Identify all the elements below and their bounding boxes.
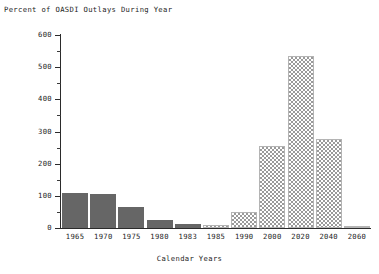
bar: [90, 194, 116, 228]
y-axis-tick-label: 100: [12, 192, 52, 199]
chart-title: Percent of OASDI Outlays During Year: [4, 5, 172, 14]
x-axis-title: Calendar Years: [0, 254, 379, 263]
x-axis-line: [60, 228, 371, 229]
y-axis-tick: [55, 228, 61, 229]
x-axis-tick-label: 1965: [61, 233, 89, 240]
bar: [316, 139, 342, 228]
x-axis-tick-label: 2040: [315, 233, 343, 240]
y-axis-tick-label: 0: [12, 224, 52, 231]
bar: [175, 224, 201, 228]
bar-chart: Percent of OASDI Outlays During Year 010…: [0, 0, 379, 274]
bar: [344, 226, 370, 228]
y-axis-tick-label: 500: [12, 63, 52, 70]
x-axis-tick-label: 1975: [117, 233, 145, 240]
bar: [288, 56, 314, 228]
bar: [259, 146, 285, 228]
x-axis-tick-label: 2020: [286, 233, 314, 240]
bar: [147, 220, 173, 228]
y-axis-tick-label: 200: [12, 160, 52, 167]
bar: [118, 207, 144, 228]
x-axis-tick-label: 2060: [343, 233, 371, 240]
x-axis-tick-label: 1983: [174, 233, 202, 240]
bar: [231, 212, 257, 228]
bar: [203, 225, 229, 228]
x-axis-tick-label: 1980: [146, 233, 174, 240]
plot-area: [61, 35, 371, 228]
x-axis-tick-label: 1970: [89, 233, 117, 240]
y-axis-tick-label: 300: [12, 128, 52, 135]
x-axis-tick-label: 1985: [202, 233, 230, 240]
y-axis-tick-label: 600: [12, 31, 52, 38]
x-axis-tick-label: 2000: [258, 233, 286, 240]
y-axis-tick-label: 400: [12, 95, 52, 102]
bar: [62, 193, 88, 228]
x-axis-tick-label: 1990: [230, 233, 258, 240]
